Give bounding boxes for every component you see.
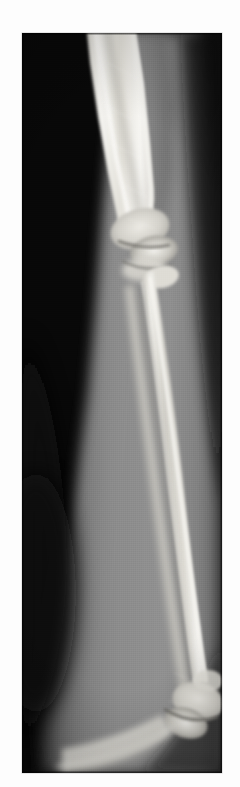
forearm-radiograph (22, 33, 222, 773)
page-canvas (0, 0, 240, 787)
xray-image (22, 33, 222, 773)
